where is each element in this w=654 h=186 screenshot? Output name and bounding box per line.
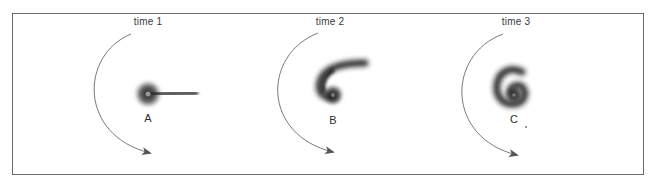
- figure-graphics: [0, 0, 654, 186]
- speck: [525, 126, 527, 128]
- time-label-2: time 2: [316, 16, 344, 27]
- center-dot-c: [512, 93, 516, 97]
- state-label-c: C: [510, 113, 518, 125]
- state-label-b: B: [329, 114, 336, 126]
- state-label-a: A: [144, 112, 151, 124]
- time-label-1: time 1: [134, 16, 162, 27]
- panel-3: [462, 34, 527, 155]
- figure-stage: time 1 time 2 time 3 A B C: [0, 0, 654, 186]
- time-label-3: time 3: [502, 16, 530, 27]
- center-dot-a: [145, 91, 150, 96]
- panel-1: [94, 34, 196, 153]
- panel-2: [278, 33, 365, 152]
- center-dot-b: [331, 93, 335, 97]
